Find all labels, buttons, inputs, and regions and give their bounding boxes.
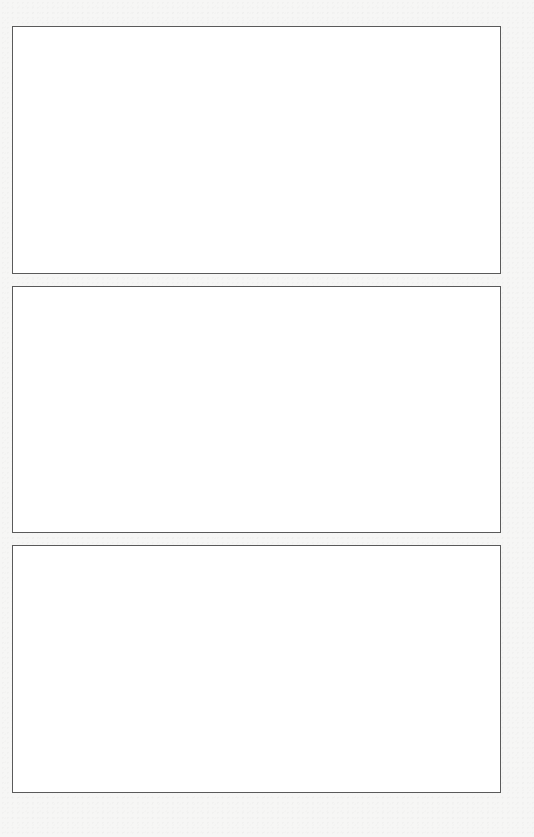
panel-2 xyxy=(12,286,501,533)
storyboard-page xyxy=(0,0,534,837)
panel-3 xyxy=(12,545,501,793)
panel-1 xyxy=(12,26,501,274)
